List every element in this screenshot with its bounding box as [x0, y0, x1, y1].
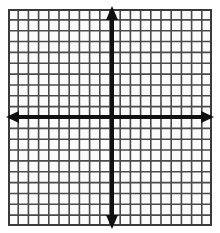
grid-lines: [8, 9, 212, 226]
grid-plate: [8, 9, 212, 226]
coordinate-grid-figure: [0, 0, 220, 233]
